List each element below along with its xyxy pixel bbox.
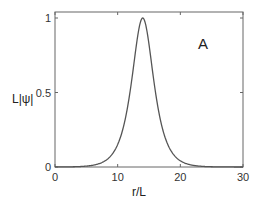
- x-axis-label: r/L: [132, 185, 146, 199]
- y-tick-label: 0.5: [36, 87, 51, 99]
- axis-ticks: [55, 12, 243, 167]
- panel-label: A: [198, 35, 208, 52]
- tick-labels: 010203000.51: [36, 12, 249, 183]
- x-tick-label: 0: [52, 171, 58, 183]
- x-tick-label: 10: [112, 171, 124, 183]
- data-line: [55, 18, 243, 167]
- y-axis-label: L|ψ|: [12, 92, 33, 106]
- y-tick-label: 1: [45, 12, 51, 24]
- chart: 010203000.51 L|ψ| r/L A: [0, 0, 261, 205]
- x-tick-label: 20: [174, 171, 186, 183]
- plot-frame: [55, 12, 243, 167]
- x-tick-label: 30: [237, 171, 249, 183]
- y-tick-label: 0: [45, 161, 51, 173]
